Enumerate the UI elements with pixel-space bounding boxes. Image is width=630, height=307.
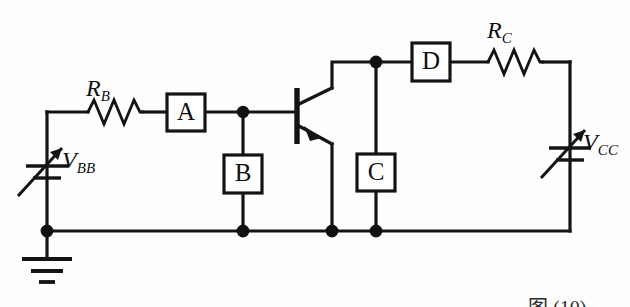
resistor-rb-zigzag [88, 100, 143, 124]
resistor-rc-label-sub: C [502, 30, 512, 46]
circuit-diagram-canvas: A B C D RB RC [0, 0, 630, 307]
transistor-npn [297, 88, 332, 144]
resistor-rc-zigzag [488, 50, 543, 74]
source-vcc-label-sub: CC [598, 142, 618, 158]
instrument-box-a-label: A [177, 98, 195, 125]
resistor-rc [488, 50, 543, 74]
wire-collector-lead [332, 62, 376, 88]
source-vbb [18, 148, 68, 196]
instrument-box-a[interactable]: A [167, 94, 205, 131]
junction-dot-ground-emitter [326, 225, 339, 238]
resistor-rc-label: RC [487, 18, 512, 46]
junction-dot-ground-box-c [370, 225, 383, 238]
instrument-box-b[interactable]: B [224, 155, 262, 193]
junction-dot-collector-node [370, 56, 383, 69]
transistor-collector-slant [299, 88, 332, 104]
resistor-rb-label: RB [86, 76, 110, 104]
instrument-box-d-label: D [422, 47, 440, 74]
instrument-box-c[interactable]: C [357, 154, 395, 191]
resistor-rb-label-base: R [86, 75, 101, 101]
resistor-rc-label-base: R [487, 17, 502, 43]
ground-symbol [22, 259, 72, 282]
source-vcc-label-base: V [583, 129, 598, 155]
instrument-box-b-label: B [235, 159, 252, 186]
wire-group [47, 62, 570, 258]
figure-caption: 图 (10) [528, 292, 586, 307]
source-vbb-label-base: V [62, 147, 77, 173]
junction-dot-base-node [237, 106, 249, 118]
resistor-rb-label-sub: B [101, 88, 110, 104]
instrument-box-c-label: C [368, 158, 385, 185]
resistor-rb [88, 100, 143, 124]
source-vcc-label: VCC [583, 130, 618, 158]
junction-dot-ground-left [41, 225, 54, 238]
source-vbb-label: VBB [62, 148, 95, 176]
source-vbb-label-sub: BB [77, 160, 96, 176]
junction-dot-ground-box-b [237, 225, 250, 238]
instrument-box-d[interactable]: D [412, 43, 450, 81]
